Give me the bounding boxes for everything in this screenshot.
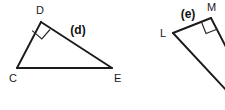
figure-tag-d: (d): [70, 23, 85, 37]
geometry-figure-canvas: C D E (d) L M (e): [0, 0, 225, 110]
vertex-label-L: L: [160, 27, 166, 39]
figure-e-group: L M (e): [160, 1, 225, 90]
vertex-label-E: E: [114, 72, 121, 84]
figure-d-group: C D E (d): [9, 4, 121, 84]
edge-L-cropped: [173, 33, 225, 90]
edge-M-cropped: [211, 18, 225, 47]
geometry-diagram-svg: C D E (d) L M (e): [0, 0, 225, 110]
vertex-label-D: D: [36, 4, 44, 16]
edge-C-D: [17, 22, 41, 68]
vertex-label-C: C: [9, 72, 17, 84]
figure-tag-e: (e): [181, 7, 196, 21]
vertex-label-M: M: [207, 1, 216, 13]
